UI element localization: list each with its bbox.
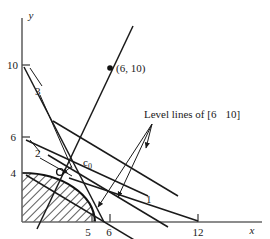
x-tick-label-5: 5 — [85, 226, 91, 238]
feasible-region — [22, 173, 95, 222]
constraint-1-label: 1 — [146, 193, 152, 205]
constraint-3-label: 3 — [35, 85, 41, 97]
x-tick-label-6: 6 — [106, 226, 112, 238]
plot-svg: x y 5 6 12 4 6 10 3 2 1 (6, 10) c0 Level… — [0, 0, 270, 239]
point-6-10-marker — [107, 65, 113, 71]
x-axis-label: x — [249, 224, 255, 236]
figure-container: x y 5 6 12 4 6 10 3 2 1 (6, 10) c0 Level… — [0, 0, 270, 239]
arrow-level-lines-1 — [118, 124, 152, 197]
y-tick-label-10: 10 — [7, 59, 19, 71]
y-tick-label-6: 6 — [11, 131, 17, 143]
y-axis-ticks — [22, 65, 30, 173]
y-axis-label: y — [28, 9, 34, 21]
point-6-10-label: (6, 10) — [116, 62, 146, 75]
x-tick-label-12: 12 — [193, 226, 204, 238]
level-lines-caption: Level lines of [610] — [144, 108, 240, 120]
leader-label-3 — [40, 95, 72, 168]
constraint-2-label: 2 — [35, 147, 41, 159]
optimum-label: c0 — [83, 156, 92, 171]
y-tick-label-4: 4 — [11, 167, 17, 179]
